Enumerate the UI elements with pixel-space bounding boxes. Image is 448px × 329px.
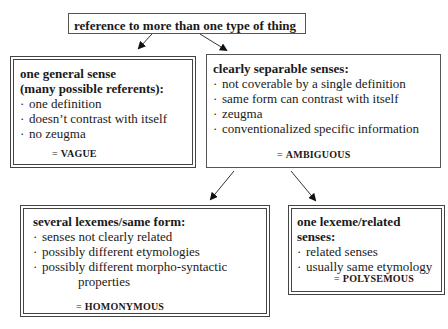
ambiguous-result: =AMBIGUOUS [277,149,350,160]
homonymous-title: several lexemes/same form: [33,214,266,229]
ambiguous-item: ·same form can contrast with itself [213,91,440,106]
bullet-icon: · [213,121,222,136]
bullet-icon: · [20,111,29,126]
vague-item: ·no zeugma [20,126,192,141]
ambiguous-item: ·conventionalized specific information [213,121,440,136]
polysemous-result: =POLYSEMOUS [334,273,414,284]
vague-result: =VAGUE [52,148,97,159]
bullet-icon: · [33,229,42,244]
homonymous-item: ·possibly different etymologies [33,244,266,259]
bullet-icon: · [33,259,42,274]
vague-item: ·one definition [20,96,192,111]
bullet-icon: · [213,91,222,106]
bullet-icon: · [297,259,306,274]
homonymous-item: ·senses not clearly related [33,229,266,244]
bullet-icon: · [20,126,29,141]
ambiguous-item: ·not coverable by a single definition [213,76,440,91]
homonymous-item-continuation: properties [33,274,266,289]
homonymous-item: ·possibly different morpho-syntactic [33,259,266,274]
arrow-root-to-ambiguous [200,34,226,50]
arrow-root-to-vague [139,34,152,48]
bullet-icon: · [20,96,29,111]
vague-box: one general sense (many possible referen… [10,56,196,168]
polysemous-title: one lexeme/related senses: [297,214,441,244]
root-label: reference to more than one type of thing [74,18,296,33]
bullet-icon: · [213,76,222,91]
vague-title-line1: one general sense [20,66,192,81]
bullet-icon: · [213,106,222,121]
polysemous-item: ·related senses [297,244,441,259]
vague-title-line2: (many possible referents): [20,81,192,96]
ambiguous-box: clearly separable senses: ·not coverable… [206,54,441,168]
bullet-icon: · [297,244,306,259]
ambiguous-item: ·zeugma [213,106,440,121]
vague-item: ·doesn’t contrast with itself [20,111,192,126]
homonymous-box: several lexemes/same form: ·senses not c… [20,205,270,317]
root-box: reference to more than one type of thing [68,13,306,34]
bullet-icon: · [33,244,42,259]
ambiguous-title: clearly separable senses: [213,61,440,76]
arrow-ambiguous-to-homonymous [211,171,234,199]
polysemous-item: ·usually same etymology [297,259,441,274]
arrow-ambiguous-to-polysemous [291,171,315,200]
homonymous-result: =HOMONYMOUS [76,301,164,312]
polysemous-box: one lexeme/related senses: ·related sens… [288,205,445,295]
